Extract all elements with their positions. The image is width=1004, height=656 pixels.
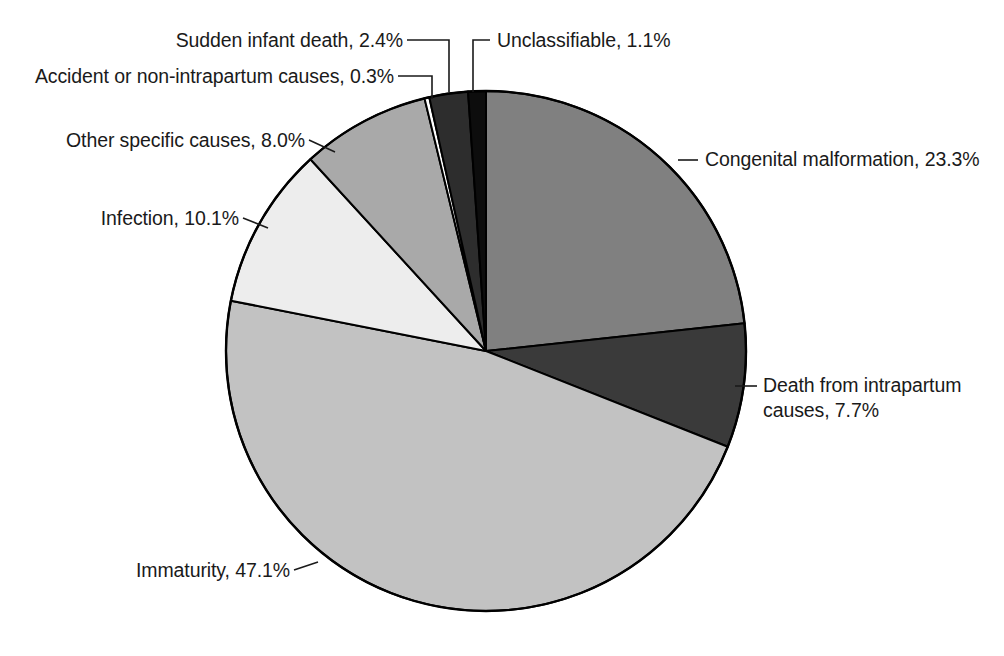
- leader-line-unclassifiable: [473, 40, 490, 92]
- label-infection: Infection, 10.1%: [0, 206, 239, 231]
- label-intrapartum-line2: causes, 7.7%: [763, 398, 879, 423]
- pie-slice-group: Congenital malformation, 23.3%Death from…: [226, 91, 746, 611]
- label-accident-non-intrapartum: Accident or non-intrapartum causes, 0.3%: [0, 64, 394, 89]
- leader-line-sudden-infant-death: [407, 40, 449, 92]
- pie-chart-figure: Congenital malformation, 23.3%Death from…: [0, 0, 1004, 656]
- label-intrapartum-line1: Death from intrapartum: [763, 373, 961, 398]
- label-immaturity: Immaturity, 47.1%: [0, 558, 290, 583]
- label-sudden-infant-death: Sudden infant death, 2.4%: [0, 28, 403, 53]
- label-other-specific-causes: Other specific causes, 8.0%: [0, 128, 305, 153]
- label-unclassifiable: Unclassifiable, 1.1%: [497, 28, 671, 53]
- leader-line-immaturity: [294, 562, 318, 570]
- label-congenital-malformation: Congenital malformation, 23.3%: [705, 147, 980, 172]
- pie-slice-congenital-malformation[interactable]: Congenital malformation, 23.3%: [486, 91, 745, 351]
- leader-line-accident: [398, 76, 432, 99]
